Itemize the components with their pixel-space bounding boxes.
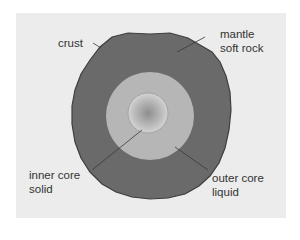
label-inner-core: inner core solid bbox=[29, 168, 80, 196]
label-outer-core-sublabel: liquid bbox=[212, 185, 264, 199]
label-outer-core: outer core liquid bbox=[212, 171, 264, 199]
leader-line-crust bbox=[93, 43, 101, 48]
label-inner-core-title: inner core bbox=[29, 168, 80, 182]
label-inner-core-sublabel: solid bbox=[29, 182, 80, 196]
label-mantle: mantle soft rock bbox=[220, 27, 263, 55]
label-crust: crust bbox=[58, 36, 83, 50]
label-outer-core-title: outer core bbox=[212, 171, 264, 185]
inner-core-shape bbox=[128, 93, 168, 133]
label-mantle-title: mantle bbox=[220, 27, 263, 41]
label-crust-title: crust bbox=[58, 36, 83, 50]
label-mantle-sublabel: soft rock bbox=[220, 41, 263, 55]
